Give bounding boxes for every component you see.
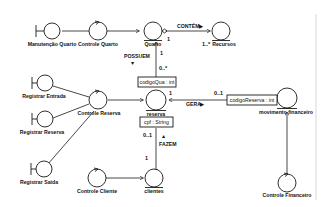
entity-label-recursos: Recursos: [212, 41, 236, 47]
assoc-direction-gera: ▶: [199, 101, 205, 107]
entity-clientes: [145, 169, 163, 188]
boundary-label-registrar-saida: Registrar Saída: [20, 179, 58, 185]
mult-fazem-clientes: 1: [145, 155, 148, 161]
assoc-label-contem: CONTÉM: [177, 22, 199, 29]
mult-possuem-quarto: 1: [160, 50, 163, 56]
control-controle-quarto: [89, 21, 107, 40]
control-label-controle-reserva: Controle Reserva: [78, 110, 121, 116]
entity-label-movimento-financeiro: movimento financeiro: [259, 109, 313, 115]
mult-possuem-reserva: 0..*: [159, 65, 168, 71]
mult-gera-reserva: 1: [169, 90, 172, 96]
boundary-registrar-reserva: [32, 111, 53, 127]
mult-fazem-reserva: 0..1: [143, 132, 152, 138]
entity-label-quarto: Quarto: [144, 41, 161, 47]
assoc-direction-contem: ▶: [198, 23, 204, 29]
entity-label-clientes: clientes: [144, 188, 163, 194]
control-controle-cliente: [88, 168, 106, 187]
control-label-controle-financeiro: Controle Financeiro: [263, 192, 312, 198]
boundary-registrar-saida: [31, 161, 52, 177]
entity-reserva: [146, 90, 166, 111]
assoc-direction-possuem: ▼: [130, 60, 135, 66]
entity-movimento-financeiro: [277, 88, 297, 109]
boundary-label-registrar-reserva: Registrar Reserva: [20, 129, 65, 135]
assoc-label-fazem: FAZEM: [159, 141, 177, 147]
qualifier-codigo-qua: codigoQua : int: [140, 79, 175, 85]
boundary-manutencao-quarto: [36, 23, 60, 39]
assoc-label-gera: GERA: [186, 101, 201, 107]
robustness-diagram: Manutenção Quarto Registrar Entrada Regi…: [0, 0, 332, 207]
entity-recursos: [212, 22, 230, 41]
control-controle-financeiro: [278, 173, 296, 192]
qualifier-codigo-reserva: codigoReserva : int: [230, 97, 275, 103]
qualifier-cpf: cpf : String: [144, 119, 169, 125]
mult-gera-movimento: 0..1: [214, 90, 223, 96]
entity-quarto: [144, 22, 167, 41]
assoc-label-possuem: POSSUEM: [124, 53, 150, 59]
boundary-label-registrar-entrada: Registrar Entrada: [22, 93, 66, 99]
control-label-controle-quarto: Controle Quarto: [78, 41, 118, 47]
entity-label-reserva: reserva: [147, 111, 166, 117]
mult-contem-quarto: 1: [167, 36, 170, 42]
boundary-label-manutencao-quarto: Manutenção Quarto: [28, 41, 77, 47]
mult-contem-recursos: 1..*: [202, 41, 211, 47]
control-controle-reserva: [89, 90, 107, 109]
link-saida-controle-reserva: [48, 111, 94, 164]
control-label-controle-cliente: Controle Cliente: [77, 188, 117, 194]
boundary-registrar-entrada: [32, 75, 53, 91]
assoc-direction-fazem: ▲: [161, 133, 166, 139]
